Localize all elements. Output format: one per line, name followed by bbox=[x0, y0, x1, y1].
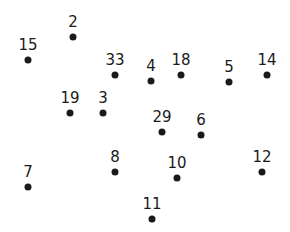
dot-point bbox=[148, 78, 155, 85]
dot-number-label: 7 bbox=[23, 165, 33, 180]
dot-number-label: 4 bbox=[146, 59, 156, 74]
dot-point bbox=[70, 34, 77, 41]
dot-point bbox=[178, 72, 185, 79]
dot-point bbox=[149, 216, 156, 223]
dot-number-label: 33 bbox=[105, 53, 124, 68]
dot-number-label: 6 bbox=[196, 113, 206, 128]
dot-point bbox=[174, 175, 181, 182]
dot-point bbox=[226, 79, 233, 86]
dot-number-label: 19 bbox=[60, 91, 79, 106]
dot-number-label: 18 bbox=[171, 53, 190, 68]
dot-point bbox=[100, 110, 107, 117]
dot-point bbox=[198, 132, 205, 139]
dot-point bbox=[25, 184, 32, 191]
dot-number-label: 5 bbox=[224, 60, 234, 75]
dot-point bbox=[25, 57, 32, 64]
dot-puzzle-canvas: 2153341851419329681012711 bbox=[0, 0, 290, 232]
dot-number-label: 8 bbox=[110, 150, 120, 165]
dot-number-label: 2 bbox=[68, 15, 78, 30]
dot-point bbox=[159, 129, 166, 136]
dot-number-label: 29 bbox=[152, 110, 171, 125]
dot-number-label: 11 bbox=[142, 197, 161, 212]
dot-number-label: 12 bbox=[252, 150, 271, 165]
dot-point bbox=[264, 72, 271, 79]
dot-point bbox=[259, 169, 266, 176]
dot-number-label: 14 bbox=[257, 53, 276, 68]
dot-point bbox=[112, 72, 119, 79]
dot-point bbox=[112, 169, 119, 176]
dot-number-label: 10 bbox=[167, 156, 186, 171]
dot-number-label: 3 bbox=[98, 91, 108, 106]
dot-point bbox=[67, 110, 74, 117]
dot-number-label: 15 bbox=[18, 38, 37, 53]
